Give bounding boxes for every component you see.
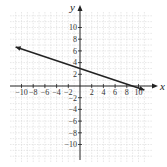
x-tick-label: 4	[101, 88, 105, 97]
y-tick-label: −6	[68, 117, 77, 126]
x-axis-arrow-icon	[152, 84, 158, 89]
y-tick-label: 10	[69, 23, 77, 32]
x-tick-label: 6	[113, 88, 117, 97]
coordinate-plane: −10−8−6−4−2246810108642−2−4−6−8−10 x y	[0, 0, 167, 167]
x-axis-label: x	[159, 80, 165, 92]
y-tick-label: −10	[64, 140, 77, 149]
x-tick-label: 2	[90, 88, 94, 97]
grid-lines	[10, 12, 152, 162]
y-tick-label: −2	[68, 94, 77, 103]
x-tick-label: −8	[29, 88, 38, 97]
line-arrowhead-icon	[139, 86, 145, 91]
y-tick-label: 8	[73, 35, 77, 44]
y-tick-label: −4	[68, 105, 77, 114]
y-tick-label: 6	[73, 47, 77, 56]
line-arrowhead-icon	[16, 46, 22, 51]
y-axis-label: y	[69, 1, 75, 13]
x-tick-label: −10	[15, 88, 28, 97]
y-axis-arrow-icon	[78, 5, 83, 11]
y-tick-label: 2	[73, 70, 77, 79]
x-tick-label: −6	[41, 88, 50, 97]
x-tick-label: −4	[52, 88, 61, 97]
axes	[10, 5, 158, 160]
x-tick-label: 8	[125, 88, 129, 97]
y-tick-label: −8	[68, 129, 77, 138]
